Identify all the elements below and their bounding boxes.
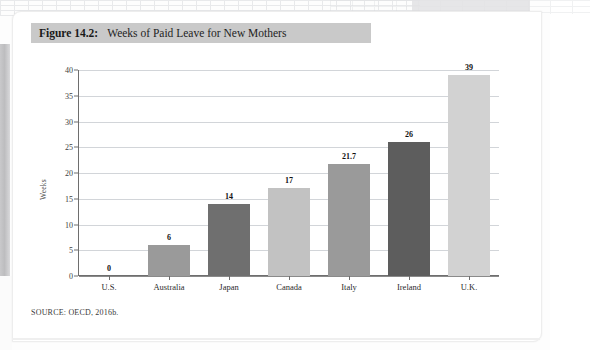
x-axis-tick-mark [169,276,170,280]
page-bottom-edge [12,338,540,340]
x-axis-tick-mark [409,276,410,280]
y-axis-tick-label: 35 [65,91,73,100]
x-axis-tick-label: Australia [153,282,184,292]
y-axis-tick-label: 20 [65,169,73,178]
bar-value-label: 17 [285,176,293,185]
x-axis-tick-mark [109,276,110,280]
x-axis-tick-label: Italy [341,282,357,292]
y-axis-tick-mark [74,147,78,148]
chart-inner-canvas: 0510152025303540 0U.S.6Australia14Japan1… [79,70,499,276]
bar-series: 0U.S.6Australia14Japan17Canada21.7Italy2… [79,70,499,276]
book-gutter-lower [0,276,12,350]
y-axis-tick-mark [74,173,78,174]
bar-value-label: 0 [107,264,111,273]
y-axis-title: Weeks [39,179,48,200]
bar-group[interactable]: 21.7Italy [319,70,379,276]
figure-title-banner: Figure 14.2: Weeks of Paid Leave for New… [31,23,371,43]
x-axis-tick-mark [229,276,230,280]
y-axis-tick-mark [74,95,78,96]
x-axis-tick-label: Japan [219,282,238,292]
x-axis-tick-label: Canada [276,282,302,292]
y-axis-tick-label: 0 [69,272,73,281]
figure-number: Figure 14.2: [39,27,98,39]
bar-group[interactable]: 0U.S. [79,70,139,276]
source-note: SOURCE: OECD, 2016b. [31,308,119,317]
bar-value-label: 6 [167,233,171,242]
y-axis-tick-label: 30 [65,117,73,126]
y-axis-tick-mark [74,121,78,122]
y-axis-tick-label: 15 [65,194,73,203]
bar[interactable] [448,75,490,276]
bar-group[interactable]: 6Australia [139,70,199,276]
y-axis-tick-label: 40 [65,66,73,75]
bar[interactable] [148,245,190,276]
bar-value-label: 39 [465,63,473,72]
figure-card: Figure 14.2: Weeks of Paid Leave for New… [12,11,542,342]
x-axis-tick-mark [349,276,350,280]
figure-title: Weeks of Paid Leave for New Mothers [107,27,286,39]
book-gutter-shadow [0,44,10,276]
y-axis-tick-mark [74,224,78,225]
x-axis-tick-label: Ireland [397,282,421,292]
y-axis-tick-mark [74,198,78,199]
bar-value-label: 26 [405,130,413,139]
bar-value-label: 14 [225,192,233,201]
bar-value-label: 21.7 [342,152,356,161]
bar[interactable] [388,142,430,276]
y-axis-tick-label: 10 [65,220,73,229]
x-axis-tick-mark [289,276,290,280]
x-axis-tick-label: U.K. [461,282,478,292]
bar-group[interactable]: 17Canada [259,70,319,276]
y-axis-tick-label: 5 [69,246,73,255]
y-axis-tick-mark [74,70,78,71]
bar-group[interactable]: 14Japan [199,70,259,276]
y-axis-tick-mark [74,250,78,251]
bar-group[interactable]: 26Ireland [379,70,439,276]
y-axis-tick-mark [74,276,78,277]
chart-plot-area: Weeks 0510152025303540 0U.S.6Australia14… [31,52,523,297]
x-axis-tick-label: U.S. [101,282,116,292]
x-axis-tick-mark [469,276,470,280]
bar-group[interactable]: 39U.K. [439,70,499,276]
y-axis-tick-label: 25 [65,143,73,152]
bar[interactable] [328,164,370,276]
bar[interactable] [268,188,310,276]
bar[interactable] [208,204,250,276]
